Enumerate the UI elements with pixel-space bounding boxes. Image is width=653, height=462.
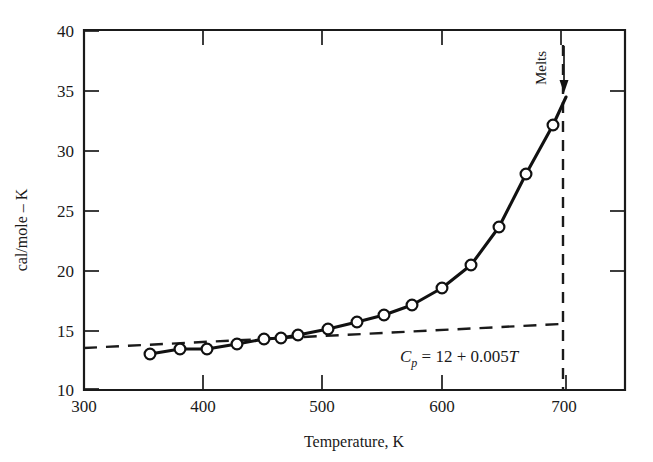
x-axis-ticks bbox=[203, 375, 566, 390]
data-point bbox=[145, 349, 156, 360]
heat-capacity-chart: 40 35 30 25 20 15 10 300 400 500 600 700… bbox=[0, 0, 653, 462]
y-axis-ticks bbox=[84, 31, 99, 389]
x-tick-label-300: 300 bbox=[71, 397, 97, 416]
y-tick-label-15: 15 bbox=[57, 322, 74, 341]
data-point bbox=[494, 222, 505, 233]
data-point bbox=[259, 334, 270, 345]
equation-symbol: C bbox=[400, 347, 412, 366]
y-tick-label-30: 30 bbox=[57, 142, 74, 161]
top-axis-ticks bbox=[203, 30, 561, 45]
data-point bbox=[352, 317, 363, 328]
x-tick-label-600: 600 bbox=[429, 397, 455, 416]
x-tick-labels: 300 400 500 600 700 bbox=[71, 397, 577, 416]
data-point bbox=[521, 169, 532, 180]
svg-text:Cp = 12 + 0.005T: Cp = 12 + 0.005T bbox=[400, 347, 520, 370]
y-tick-labels: 40 35 30 25 20 15 10 bbox=[57, 22, 74, 400]
y-tick-label-20: 20 bbox=[57, 262, 74, 281]
right-axis-ticks bbox=[610, 91, 625, 271]
equation-variable: T bbox=[509, 347, 520, 366]
y-tick-label-40: 40 bbox=[57, 22, 74, 41]
data-point bbox=[379, 310, 390, 321]
chart-page: 40 35 30 25 20 15 10 300 400 500 600 700… bbox=[0, 0, 653, 462]
y-tick-label-25: 25 bbox=[57, 202, 74, 221]
data-point bbox=[232, 339, 243, 350]
data-point bbox=[466, 260, 477, 271]
down-arrow-icon bbox=[560, 80, 569, 93]
data-point bbox=[276, 333, 287, 344]
x-axis-title: Temperature, K bbox=[304, 433, 405, 451]
equation-label: Cp = 12 + 0.005T bbox=[400, 347, 520, 370]
data-point bbox=[407, 300, 418, 311]
data-point bbox=[293, 330, 304, 341]
x-tick-label-400: 400 bbox=[190, 397, 216, 416]
melts-label: Melts bbox=[533, 51, 549, 85]
melts-annotation: Melts bbox=[533, 46, 569, 93]
data-point bbox=[437, 283, 448, 294]
y-tick-label-35: 35 bbox=[57, 82, 74, 101]
equation-rest: = 12 + 0.005 bbox=[417, 347, 508, 366]
data-point bbox=[548, 120, 559, 131]
equation-subscript: p bbox=[410, 356, 417, 370]
y-axis-title: cal/mole – K bbox=[13, 188, 30, 271]
data-point-markers bbox=[145, 120, 559, 360]
data-point bbox=[175, 344, 186, 355]
x-tick-label-500: 500 bbox=[309, 397, 335, 416]
data-point bbox=[202, 344, 213, 355]
data-point bbox=[323, 324, 334, 335]
x-tick-label-700: 700 bbox=[551, 397, 577, 416]
